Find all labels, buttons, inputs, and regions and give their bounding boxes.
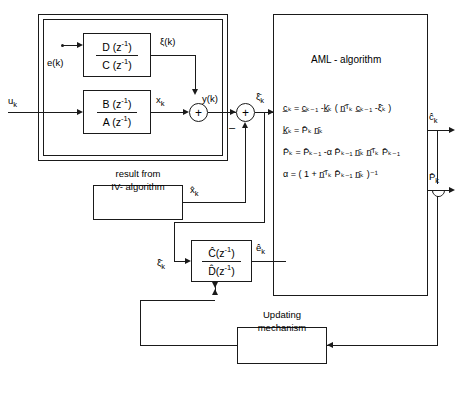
iv-algorithm-line1: result from (116, 168, 161, 179)
label-y-k: y(k) (202, 94, 218, 105)
arrowhead-estimator-filter-update (212, 289, 218, 295)
wire-right-bus-upper (437, 130, 438, 184)
wire-updating-output-up (140, 300, 141, 346)
block-diagram-canvas: D (z-1) C (z-1) B (z-1) A (z-1) e(k) ξ(k… (0, 0, 463, 399)
label-noise-e: e(k) (47, 58, 63, 69)
label-x-hat-k: x̂k (190, 185, 199, 199)
noise-filter-denominator: C (z (102, 58, 121, 70)
aml-equation-alpha: α = ( 1 + n̲̄ᵀₖ P̄ₖ₋₁ n̲̄ₖ )⁻¹ (283, 169, 378, 180)
arrowhead-summer1-top-input (192, 89, 198, 95)
noise-filter-num-close: ) (128, 40, 132, 52)
wire-e-hat-out (252, 261, 286, 262)
iv-algorithm-line2: IV- algorithm (111, 180, 164, 191)
label-input-u: uk (8, 96, 17, 110)
wire-residual-tap-left (174, 222, 265, 223)
wire-right-bus-lower (437, 196, 438, 346)
arrowhead-c-hat-output (449, 127, 455, 133)
summer2-minus-sign: – (229, 121, 235, 134)
noise-filter-transfer-function: D (z-1) C (z-1) (83, 33, 151, 77)
estimator-den-close: ) (231, 264, 235, 276)
label-e-hat-k: êk (256, 243, 265, 257)
wire-residual-tap-down (264, 112, 265, 223)
wire-e-to-noise-filter (62, 45, 77, 46)
label-x-k: xk (156, 95, 165, 109)
iv-algorithm-label: result from IV- algorithm (93, 168, 183, 203)
updating-mechanism-line2: mechanism (258, 321, 307, 332)
noise-filter-numerator: D (z (102, 40, 121, 52)
wire-right-bus-to-updating (327, 345, 438, 346)
wire-xk-to-summer1 (151, 112, 183, 113)
updating-mechanism-line1: Updating (263, 309, 301, 320)
summer2-plus-sign: + (242, 107, 249, 119)
aml-equation-c-update: c̲ₖ = c̲ₖ₋₁ -k̲̄ₖ ( n̲̄ᵀₖ c̲ₖ₋₁ -ξ̄ₖ ) (283, 103, 391, 114)
arrowhead-filter-bottom (212, 282, 218, 288)
estimator-filter-transfer-function: Ĉ(z-1) D̂(z-1) (191, 240, 252, 282)
process-filter-den-exponent: -1 (121, 114, 128, 123)
wire-u-input (8, 112, 77, 113)
summing-junction-plant-output: + (189, 103, 208, 122)
label-xi-bar-feedback: ξ̄k (157, 258, 165, 272)
label-xi-bar-k: ξ̄k (256, 92, 264, 106)
arrowhead-summer2-minus-input (242, 122, 248, 128)
updating-mechanism-label: Updating mechanism (237, 309, 327, 346)
noise-filter-den-close: ) (128, 58, 132, 70)
wire-noise-filter-output (151, 55, 196, 56)
estimator-num-arg: (z (216, 246, 225, 258)
estimator-den-arg: (z (216, 264, 225, 276)
wire-c-hat-output (428, 130, 451, 131)
arrowhead-p-bar-output (449, 187, 455, 193)
process-filter-num-exponent: -1 (121, 96, 128, 105)
label-xi-k: ξ(k) (160, 37, 175, 48)
wire-residual-into-filter (174, 261, 186, 262)
aml-algorithm-title: AML - algorithm (311, 54, 381, 65)
wire-x-hat-right (183, 202, 245, 203)
label-c-hat-k: ĉk (429, 112, 438, 126)
wire-updating-output-left (140, 345, 237, 346)
process-filter-den-close: ) (128, 115, 132, 127)
process-filter-num-close: ) (128, 97, 132, 109)
wire-updating-to-filter (140, 300, 215, 301)
process-filter-transfer-function: B (z-1) A (z-1) (83, 90, 151, 134)
summer1-plus-sign: + (195, 107, 202, 119)
aml-equation-covariance: P̄ₖ = P̄ₖ₋₁ -α P̄ₖ₋₁ n̲̄ₖ n̲̄ᵀₖ P̄ₖ₋₁ (283, 147, 400, 158)
summing-junction-error: + (236, 103, 255, 122)
estimator-num-close: ) (231, 246, 235, 258)
arrowhead-process-filter-input (77, 109, 83, 115)
arrowhead-noise-filter-input (77, 42, 83, 48)
process-filter-numerator: B (z (103, 97, 122, 109)
aml-equation-gain: k̲̄ₖ = P̄ₖ n̲̄ₖ (283, 125, 323, 136)
wire-residual-tap-to-filter (174, 222, 175, 261)
wire-xi-down-to-summer (195, 55, 196, 90)
process-filter-denominator: A (z (103, 115, 121, 127)
wire-x-hat-up-to-summer2 (245, 127, 246, 203)
arrowhead-updating-right-input (327, 342, 333, 348)
